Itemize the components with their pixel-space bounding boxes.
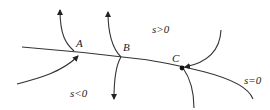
trajectory-c-down (183, 68, 194, 108)
switching-line-curve (22, 47, 253, 99)
phase-diagram: A B C s>0 s<0 s=0 (0, 0, 270, 110)
region-negative-label: s<0 (70, 87, 88, 99)
trajectory-a-in (17, 56, 78, 84)
trajectory-a-up (60, 10, 74, 51)
point-c-label: C (172, 52, 180, 64)
point-a-label: A (75, 37, 83, 49)
trajectory-c-in (185, 30, 221, 67)
point-c-marker (180, 66, 185, 71)
point-b-label: B (123, 41, 130, 53)
switching-line-label: s=0 (244, 74, 262, 86)
trajectory-b-up (108, 12, 121, 57)
region-positive-label: s>0 (152, 23, 170, 35)
trajectory-b-down (114, 57, 121, 99)
